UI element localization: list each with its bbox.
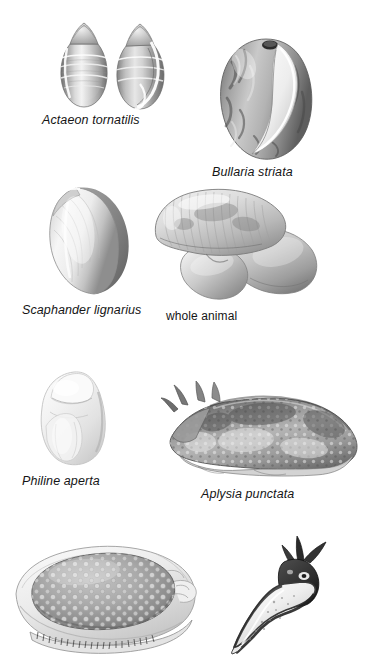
caption-aplysia: Aplysia punctata (201, 487, 294, 501)
figure-aplysia (158, 378, 368, 478)
figure-bullaria (214, 36, 319, 164)
figure-philine (34, 368, 134, 468)
caption-bullaria: Bullaria striata (212, 165, 293, 179)
actaeon-shell-right (116, 24, 164, 109)
caption-philine: Philine aperta (22, 474, 100, 488)
actaeon-shell-left (60, 23, 108, 107)
figure-scaphander-animal (146, 178, 326, 308)
caption-scaphander-animal: whole animal (166, 309, 237, 323)
figure-dorid (6, 528, 206, 655)
figure-actaeon (40, 18, 175, 113)
caption-actaeon: Actaeon tornatilis (42, 113, 140, 127)
illustration-plate: Actaeon tornatilis (0, 0, 373, 655)
caption-scaphander-shell: Scaphander lignarius (22, 303, 141, 317)
figure-scaphander-shell (44, 182, 144, 300)
figure-nudibranch-pale (228, 532, 336, 655)
